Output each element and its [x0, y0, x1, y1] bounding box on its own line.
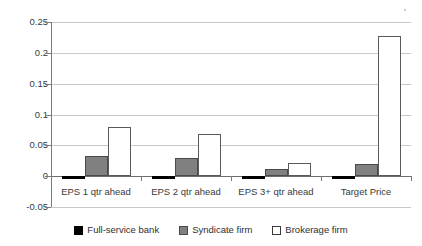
plot-area: 0.25 0.2 0.15 0.1 0.05 0 -0.05 EPS 1 qtr…: [0, 0, 422, 214]
bar-group: [141, 22, 231, 207]
y-tick-mark: [45, 115, 51, 116]
bar: [265, 169, 288, 176]
x-axis-category-labels: EPS 1 qtr aheadEPS 2 qtr aheadEPS 3+ qtr…: [51, 186, 411, 206]
y-tick-label: 0: [4, 171, 48, 181]
x-category-label: EPS 2 qtr ahead: [141, 186, 231, 198]
legend-label: Brokerage firm: [285, 224, 347, 236]
bar: [152, 176, 175, 179]
bar: [198, 134, 221, 176]
bar-group: [51, 22, 141, 207]
bar: [242, 176, 265, 178]
legend-item[interactable]: Brokerage firm: [272, 224, 347, 236]
bar: [332, 176, 355, 179]
y-tick-mark: [45, 53, 51, 54]
y-tick-label: -0.05: [4, 202, 48, 212]
y-tick-label: 0.1: [4, 110, 48, 120]
legend-label: Syndicate firm: [192, 224, 252, 236]
y-tick-mark: [45, 176, 51, 177]
x-category-label: EPS 1 qtr ahead: [51, 186, 141, 198]
x-category-label: EPS 3+ qtr ahead: [231, 186, 321, 198]
y-axis-tick-labels: 0.25 0.2 0.15 0.1 0.05 0 -0.05: [0, 0, 48, 214]
y-tick-label: 0.25: [4, 17, 48, 27]
y-tick-label: 0.05: [4, 140, 48, 150]
legend-item[interactable]: Full-service bank: [74, 224, 159, 236]
chart-legend: Full-service bankSyndicate firmBrokerage…: [0, 220, 422, 240]
legend-item[interactable]: Syndicate firm: [179, 224, 252, 236]
bar: [378, 36, 401, 177]
bar: [85, 156, 108, 176]
bar: [62, 176, 85, 179]
gray-square-icon: [179, 226, 188, 235]
x-tick-mark: [411, 176, 412, 181]
scan-artifact-dot: [404, 9, 406, 11]
bars-layer: [51, 22, 411, 207]
y-tick-mark: [45, 145, 51, 146]
bar: [108, 127, 131, 176]
legend-label: Full-service bank: [87, 224, 159, 236]
black-square-icon: [74, 226, 83, 235]
bar-group: [231, 22, 321, 207]
y-tick-mark: [45, 84, 51, 85]
x-category-label: Target Price: [321, 186, 411, 198]
bar: [355, 164, 378, 176]
bar-chart: 0.25 0.2 0.15 0.1 0.05 0 -0.05 EPS 1 qtr…: [0, 0, 422, 246]
white-square-icon: [272, 226, 281, 235]
y-tick-mark: [45, 22, 51, 23]
bar-group: [321, 22, 411, 207]
y-tick-mark: [45, 207, 51, 208]
y-tick-label: 0.15: [4, 79, 48, 89]
bar: [288, 163, 311, 176]
gridline: [51, 207, 411, 208]
y-tick-label: 0.2: [4, 48, 48, 58]
bar: [175, 158, 198, 177]
